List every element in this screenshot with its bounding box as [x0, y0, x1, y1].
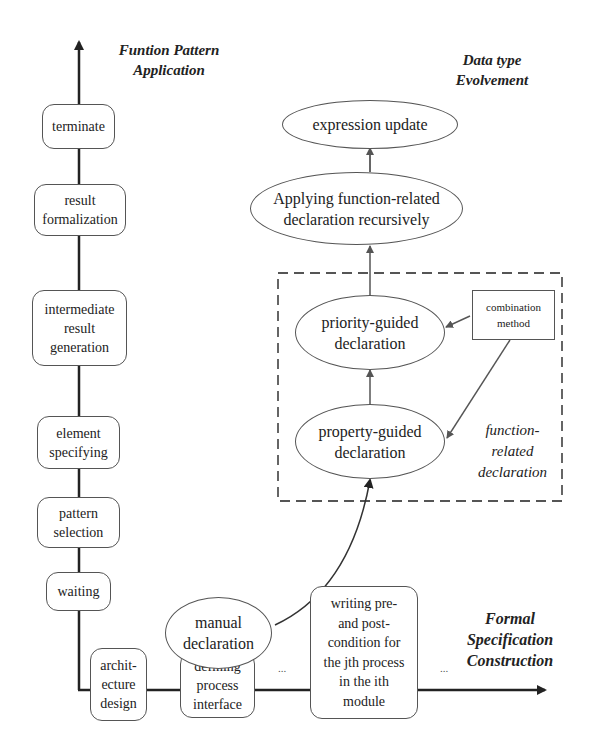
node-applying-recursively: Applying function-related declaration re… — [250, 172, 463, 245]
ellipsis-2: ... — [440, 662, 448, 674]
node-expression-update: expression update — [282, 100, 458, 149]
step-writing-pre-post-condition: writing pre- and post- condition for the… — [310, 586, 418, 719]
node-manual-declaration: manual declaration — [165, 597, 272, 669]
node-property-guided-declaration: property-guided declaration — [295, 404, 445, 479]
node-combination-method: combination method — [472, 290, 555, 340]
data-type-evolvement-title: Data type Evolvement — [442, 50, 542, 90]
step-pattern-selection: pattern selection — [37, 497, 120, 548]
function-related-declaration-label: function- related declaration — [465, 420, 560, 483]
step-result-formalization: result formalization — [34, 184, 126, 236]
node-priority-guided-declaration: priority-guided declaration — [295, 295, 445, 370]
step-waiting: waiting — [46, 572, 111, 611]
step-intermediate-result-generation: intermediate result generation — [32, 290, 127, 366]
step-element-specifying: element specifying — [37, 416, 120, 469]
ellipsis-1: ... — [278, 662, 286, 674]
step-architecture-design: archit- ecture design — [90, 648, 147, 721]
formal-specification-construction-title: Formal Specification Construction — [455, 608, 565, 671]
function-pattern-application-title: Funtion Pattern Application — [104, 40, 234, 80]
step-terminate: terminate — [42, 104, 115, 149]
